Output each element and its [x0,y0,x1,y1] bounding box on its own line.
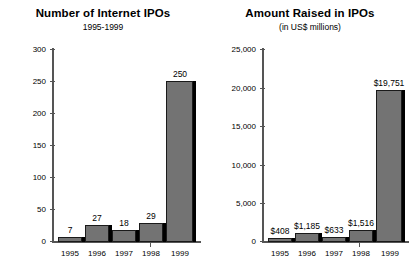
x-tick-label-1999: 1999 [161,249,199,258]
bar-label-1999: $19,751 [366,78,412,88]
bar-1997 [322,237,346,242]
bar-label-1999: 250 [160,69,200,79]
chart-figure: Number of Internet IPOs 1995-1999 0 50 1… [0,0,413,271]
y-tick-250 [50,81,55,82]
chart-panel-amount-raised-ipos: Amount Raised in IPOs (in US$ millions) … [207,0,413,271]
bar-1999 [166,81,193,242]
y-tick-label-200: 200 [8,109,46,118]
bar-1997 [112,230,136,242]
y-tick-label-300: 300 [8,45,46,54]
x-tick-minor [359,242,360,247]
y-tick-label-100: 100 [8,173,46,182]
y-tick-label-0: 0 [209,237,256,246]
y-axis-line [262,48,264,243]
y-tick-10000 [260,165,265,166]
x-tick-label-1999: 1999 [371,249,409,258]
bar-1998 [349,230,373,242]
y-tick-300 [50,49,55,50]
plot-area: 0 5,000 10,000 15,000 20,000 25,000 $408… [207,0,413,271]
y-tick-label-10000: 10,000 [209,161,256,170]
x-tick-minor [150,242,151,247]
bar-1999 [376,90,402,242]
y-tick-100 [50,177,55,178]
y-tick-label-250: 250 [8,77,46,86]
plot-area: 0 50 100 150 200 250 300 7 27 1 [0,0,206,271]
bar-1995 [58,237,82,242]
y-tick-15000 [260,126,265,127]
bar-1995 [268,238,292,242]
y-tick-label-20000: 20,000 [209,84,256,93]
y-tick-label-50: 50 [8,205,46,214]
chart-panel-internet-ipos-count: Number of Internet IPOs 1995-1999 0 50 1… [0,0,206,271]
bar-label-1998: 29 [133,211,169,221]
y-tick-5000 [260,203,265,204]
y-tick-0 [50,241,55,242]
y-tick-200 [50,113,55,114]
y-tick-label-0: 0 [8,237,46,246]
y-tick-label-150: 150 [8,141,46,150]
y-tick-label-25000: 25,000 [209,45,256,54]
y-tick-label-15000: 15,000 [209,122,256,131]
bar-1998 [139,223,163,242]
y-tick-50 [50,209,55,210]
y-tick-label-5000: 5,000 [209,199,256,208]
y-tick-20000 [260,88,265,89]
bar-label-1995: 7 [52,225,88,235]
y-tick-25000 [260,49,265,50]
y-tick-0 [260,241,265,242]
y-tick-150 [50,145,55,146]
